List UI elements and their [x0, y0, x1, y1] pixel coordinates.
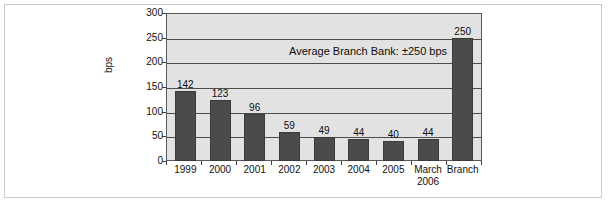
x-tick-mark	[306, 161, 307, 165]
y-tick-label: 200	[129, 57, 163, 67]
x-tick-label: 2003	[307, 164, 342, 188]
bar[interactable]	[244, 114, 265, 161]
x-tick-label: 2000	[203, 164, 238, 188]
bar-slot: 40	[376, 13, 411, 161]
bar[interactable]	[175, 91, 196, 161]
bar-value-label: 96	[235, 102, 275, 113]
bar-value-label: 44	[408, 127, 448, 138]
x-tick-mark	[341, 161, 342, 165]
bar[interactable]	[210, 100, 231, 161]
bar-value-label: 250	[443, 26, 483, 37]
y-tick-label: 50	[129, 131, 163, 141]
x-tick-label: 2001	[237, 164, 272, 188]
bar-slot: 96	[237, 13, 272, 161]
x-tick-mark	[166, 161, 167, 165]
bar-chart: bps 300 250 200 150 100 50 0 Average Bra	[5, 5, 603, 199]
x-tick-label: Branch	[445, 164, 480, 188]
x-tick-line1: 2003	[313, 164, 335, 175]
x-tick-line2: 2006	[411, 176, 446, 188]
x-tick-mark	[376, 161, 377, 165]
bar-slot: 142	[168, 13, 203, 161]
bar[interactable]	[279, 132, 300, 161]
bar-slot: 44	[341, 13, 376, 161]
x-tick-mark	[236, 161, 237, 165]
y-tick-label: 300	[129, 8, 163, 18]
bar[interactable]	[383, 141, 404, 161]
bar-slot: 59	[272, 13, 307, 161]
bars-layer: 142 123 96 59 49 44	[166, 13, 482, 161]
x-tick-label: 2004	[341, 164, 376, 188]
x-tick-line1: 2000	[209, 164, 231, 175]
figure-frame: bps 300 250 200 150 100 50 0 Average Bra	[4, 4, 602, 198]
y-tick-label: 0	[129, 156, 163, 166]
bar-value-label: 123	[200, 88, 240, 99]
x-axis-ticks: 1999 2000 2001 2002 2003 2004	[166, 164, 482, 188]
x-tick-line1: 2001	[244, 164, 266, 175]
x-tick-label: 2002	[272, 164, 307, 188]
x-tick-label: March 2006	[411, 164, 446, 188]
x-tick-label: 1999	[168, 164, 203, 188]
bar-slot: 49	[307, 13, 342, 161]
bar[interactable]	[418, 139, 439, 161]
x-tick-line1: 1999	[174, 164, 196, 175]
y-axis-title: bps	[103, 57, 114, 73]
x-tick-line1: Branch	[447, 164, 479, 175]
x-tick-mark	[411, 161, 412, 165]
bar-slot: 123	[203, 13, 238, 161]
y-tick-label: 250	[129, 33, 163, 43]
x-tick-mark	[271, 161, 272, 165]
y-tick-label: 100	[129, 107, 163, 117]
bar-slot: 44	[411, 13, 446, 161]
bar-slot: 250	[445, 13, 480, 161]
x-tick-line1: 2002	[278, 164, 300, 175]
x-tick-line1: 2005	[382, 164, 404, 175]
x-tick-mark	[201, 161, 202, 165]
x-tick-mark	[446, 161, 447, 165]
bar[interactable]	[452, 38, 473, 161]
bar[interactable]	[348, 139, 369, 161]
bar[interactable]	[314, 137, 335, 161]
x-tick-line1: 2004	[348, 164, 370, 175]
y-axis-ticks: 300 250 200 150 100 50 0	[125, 13, 163, 161]
x-tick-line1: March	[414, 164, 442, 175]
y-tick-label: 150	[129, 82, 163, 92]
x-tick-mark	[481, 161, 482, 165]
x-tick-label: 2005	[376, 164, 411, 188]
